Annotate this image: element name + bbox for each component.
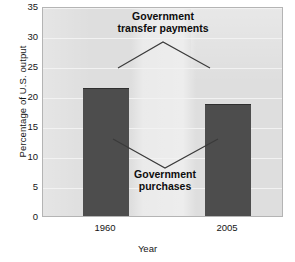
annotation-government-purchases: Government purchases: [100, 168, 230, 193]
y-tick-label: 10: [16, 152, 38, 162]
x-axis-title: Year: [0, 243, 295, 254]
gridline: [43, 98, 282, 99]
gridline: [43, 8, 282, 9]
y-tick-label: 25: [16, 62, 38, 72]
x-tick-label: 1960: [75, 222, 135, 233]
y-axis-ticks: 05101520253035: [16, 0, 38, 262]
y-tick-label: 0: [16, 212, 38, 222]
chart-figure: Percentage of U.S. output 05101520253035…: [0, 0, 295, 262]
gridline: [43, 68, 282, 69]
annotation-transfer-payments: Government transfer payments: [78, 10, 248, 35]
y-tick-label: 15: [16, 122, 38, 132]
gridline: [43, 38, 282, 39]
bar: [83, 88, 129, 217]
y-tick-label: 20: [16, 92, 38, 102]
bar: [205, 104, 251, 217]
y-tick-label: 5: [16, 182, 38, 192]
y-tick-label: 35: [16, 2, 38, 12]
x-tick-label: 2005: [197, 222, 257, 233]
y-tick-label: 30: [16, 32, 38, 42]
